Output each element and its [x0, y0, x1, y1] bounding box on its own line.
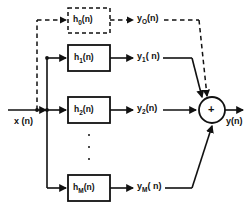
- distribution-bus: [45, 58, 49, 188]
- filter-block-hm-label: hM(n): [73, 183, 94, 194]
- h0-suffix: (n): [82, 14, 93, 24]
- branch-m-output-line: [110, 126, 212, 188]
- h1-suffix: (n): [83, 52, 94, 62]
- hm-suffix: (n): [84, 182, 95, 192]
- signal-label-y0: yO(n): [137, 14, 159, 25]
- ellipsis-dot: [88, 146, 90, 148]
- y0-suffix: (n): [147, 13, 159, 23]
- adder-plus-symbol: +: [208, 104, 214, 115]
- signal-label-y1: y1( n): [137, 52, 160, 63]
- dashed-branch-bus: [35, 20, 66, 112]
- signal-label-y2: y2(n): [137, 104, 157, 115]
- filter-block-h2-label: h2(n): [74, 105, 94, 116]
- filter-block-h0-label: h0(n): [73, 15, 93, 26]
- y1-suffix: ( n): [146, 51, 160, 61]
- signal-label-ym: yM( n): [137, 182, 161, 193]
- h2-suffix: (n): [83, 104, 94, 114]
- ym-suffix: ( n): [147, 181, 161, 191]
- vertical-ellipsis: [88, 134, 90, 160]
- branch-1-input-line: [45, 56, 66, 60]
- output-label: y(n): [226, 117, 243, 126]
- filter-bank-diagram: x (n) h0(n) h1(n) h2(n) hM(n) yO(n) y1( …: [0, 0, 249, 216]
- input-label: x (n): [14, 117, 33, 126]
- y2-suffix: (n): [146, 103, 158, 113]
- filter-block-h1-label: h1(n): [74, 53, 94, 64]
- ellipsis-dot: [88, 134, 90, 136]
- branch-1-output-line: [110, 58, 202, 97]
- ellipsis-dot: [88, 158, 90, 160]
